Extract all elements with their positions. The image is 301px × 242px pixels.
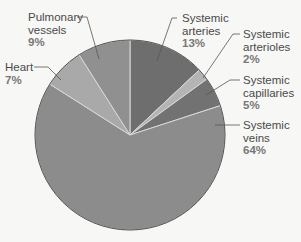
label-percent: 2%: [243, 53, 290, 66]
label-systemic-veins: Systemic veins 64%: [243, 119, 290, 157]
label-percent: 5%: [243, 99, 294, 112]
label-percent: 13%: [182, 37, 229, 50]
label-text: vessels: [28, 24, 83, 37]
label-text: arterioles: [243, 41, 290, 54]
label-text: Systemic: [243, 119, 290, 132]
label-text: veins: [243, 132, 290, 145]
pie-slices: [35, 40, 225, 230]
label-systemic-arteries: Systemic arteries 13%: [182, 12, 229, 50]
label-text: Heart: [5, 61, 33, 74]
label-text: Systemic: [243, 28, 290, 41]
label-text: arteries: [182, 25, 229, 38]
label-text: Systemic: [182, 12, 229, 25]
label-heart: Heart 7%: [5, 61, 33, 86]
label-text: Pulmonary: [28, 11, 83, 24]
label-pulmonary-vessels: Pulmonary vessels 9%: [28, 11, 83, 49]
label-text: capillaries: [243, 87, 294, 100]
label-percent: 64%: [243, 144, 290, 157]
label-systemic-capillaries: Systemic capillaries 5%: [243, 74, 294, 112]
label-percent: 7%: [5, 74, 33, 87]
label-text: Systemic: [243, 74, 294, 87]
label-percent: 9%: [28, 36, 83, 49]
label-systemic-arterioles: Systemic arterioles 2%: [243, 28, 290, 66]
